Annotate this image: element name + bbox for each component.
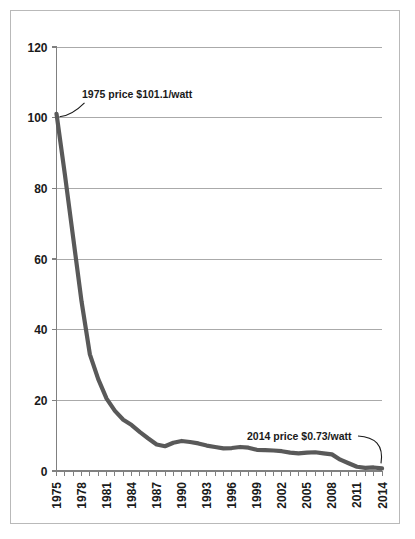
- y-axis-tick-label: 120: [27, 41, 47, 55]
- x-axis-tick-label: 1990: [175, 482, 189, 509]
- x-axis-tick-label: 2008: [325, 482, 339, 509]
- annotation-left-label: 1975 price $101.1/watt: [82, 88, 193, 100]
- x-axis-tick-label: 1975: [50, 482, 64, 509]
- y-axis-tick-label: 20: [34, 394, 48, 408]
- figure-canvas: 020406080100120 197519781981198419871990…: [0, 0, 415, 539]
- x-axis-tick-label: 1996: [225, 482, 239, 509]
- x-axis-tick-label: 1999: [250, 482, 264, 509]
- leader-line-left: [60, 103, 85, 117]
- x-axis-tick-label: 2014: [376, 482, 390, 509]
- leader-line-right: [358, 436, 382, 463]
- x-axis-tick-label: 1984: [125, 482, 139, 509]
- annotation-right-label: 2014 price $0.73/watt: [247, 430, 352, 442]
- line-chart: 020406080100120 197519781981198419871990…: [0, 0, 415, 539]
- data-line-path: [57, 114, 383, 469]
- y-axis-ticks: [52, 47, 57, 471]
- x-axis-tick-label: 1987: [150, 482, 164, 509]
- gridlines: [57, 47, 383, 471]
- x-axis-tick-label: 1978: [75, 482, 89, 509]
- x-axis-tick-label: 1981: [100, 482, 114, 509]
- y-axis-tick-label: 40: [34, 323, 48, 337]
- annotation-leader-lines: [60, 103, 382, 464]
- y-axis-tick-label: 80: [34, 182, 48, 196]
- y-axis-tick-labels: 020406080100120: [27, 41, 47, 479]
- x-axis-tick-label: 2011: [350, 482, 364, 508]
- y-axis-tick-label: 60: [34, 253, 48, 267]
- x-axis-tick-label: 1993: [200, 482, 214, 509]
- y-axis-tick-label: 0: [41, 465, 48, 479]
- x-axis-ticks: [57, 471, 383, 476]
- x-axis-tick-label: 2005: [300, 482, 314, 509]
- x-axis-tick-labels: 1975197819811984198719901993199619992002…: [50, 482, 390, 509]
- y-axis-tick-label: 100: [27, 111, 47, 125]
- data-series-line: [57, 114, 383, 469]
- x-axis-tick-label: 2002: [275, 482, 289, 509]
